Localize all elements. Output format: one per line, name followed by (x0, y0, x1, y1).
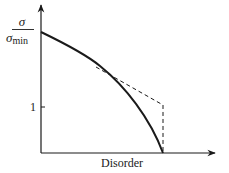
diagram-canvas: 1 σ σmin Disorder (0, 0, 229, 173)
y-label-denominator: σmin (6, 30, 28, 46)
y-label-numerator: σ (19, 14, 26, 29)
dashed-extrapolation-line (96, 67, 163, 153)
x-axis-label: Disorder (101, 156, 143, 170)
y-tick-label: 1 (30, 100, 36, 114)
conductivity-curve (41, 32, 163, 153)
y-axis-label: σ σmin (6, 14, 34, 46)
